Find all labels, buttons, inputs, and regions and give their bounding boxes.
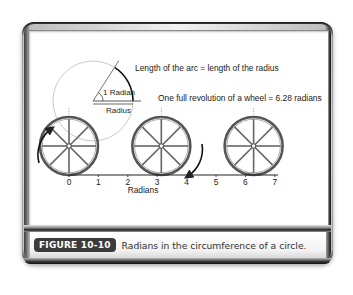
wheel-spoke <box>50 127 69 146</box>
axis-title: Radians <box>128 185 159 195</box>
wheel-spoke <box>161 146 180 165</box>
revolution-label: One full revolution of a wheel = 6.28 ra… <box>158 93 322 103</box>
wheel-hub <box>251 144 255 148</box>
wheel-spoke <box>69 127 88 146</box>
wheel <box>225 108 283 175</box>
radius-label: Radius <box>106 106 131 115</box>
axis-tick-label: 5 <box>214 177 219 187</box>
wheel <box>132 108 190 175</box>
radian-diagram: 1 Radian Radius Length of the arc = leng… <box>0 0 353 295</box>
wheels-group <box>40 108 283 175</box>
axis-tick-label: 7 <box>272 177 277 187</box>
radian-circle-group: 1 Radian Radius <box>53 61 141 141</box>
wheel-spoke <box>142 127 161 146</box>
wheel-spoke <box>254 146 273 165</box>
wheel-spoke <box>235 127 254 146</box>
angle-label: 1 Radian <box>103 88 135 97</box>
wheel <box>40 108 98 175</box>
wheel-spoke <box>235 146 254 165</box>
wheel-spoke <box>142 146 161 165</box>
axis-tick-label: 6 <box>243 177 248 187</box>
wheel-hub <box>159 144 163 148</box>
axis-tick-label: 1 <box>96 177 101 187</box>
wheel-spoke <box>50 146 69 165</box>
radians-axis: 01234567 <box>67 175 278 187</box>
axis-tick-label: 4 <box>184 177 189 187</box>
wheel-spoke <box>69 146 88 165</box>
wheel-spoke <box>161 127 180 146</box>
wheel-hub <box>67 144 71 148</box>
arc-length-label: Length of the arc = length of the radius <box>135 63 279 73</box>
axis-tick-label: 0 <box>67 177 72 187</box>
wheel-spoke <box>254 127 273 146</box>
